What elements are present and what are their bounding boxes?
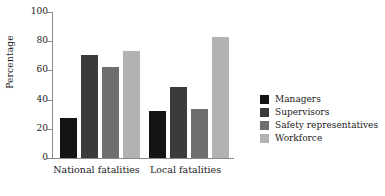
y-tick-label: 0	[42, 151, 48, 164]
legend-label: Managers	[275, 93, 321, 106]
bar	[123, 51, 140, 158]
y-tick-label: 100	[31, 5, 48, 18]
legend-item: Workforce	[260, 132, 378, 145]
legend-swatch-icon	[260, 121, 269, 130]
y-tick-label: 20	[37, 122, 48, 135]
legend-label: Supervisors	[275, 106, 329, 119]
plot-area: 020406080100 National fatalitiesLocal fa…	[52, 12, 230, 158]
bar-chart-figure: Percentage 020406080100 National fatalit…	[0, 0, 385, 196]
x-axis-group-label: National fatalities	[52, 164, 141, 175]
legend-label: Workforce	[275, 132, 322, 145]
legend-swatch-icon	[260, 108, 269, 117]
legend-item: Safety representatives	[260, 119, 378, 132]
legend-swatch-icon	[260, 95, 269, 104]
chart-legend: ManagersSupervisorsSafety representative…	[260, 93, 378, 145]
y-axis-line	[52, 12, 53, 158]
bar	[60, 118, 77, 158]
x-axis-line	[52, 158, 234, 159]
bar	[149, 111, 166, 158]
y-tick-label: 80	[37, 34, 48, 47]
legend-item: Supervisors	[260, 106, 378, 119]
legend-label: Safety representatives	[275, 119, 378, 132]
bar	[81, 55, 98, 158]
bar	[191, 109, 208, 158]
bar	[102, 67, 119, 158]
y-axis-title: Percentage	[5, 22, 15, 102]
y-tick-label: 40	[37, 93, 48, 106]
y-tick-label: 60	[37, 63, 48, 76]
legend-item: Managers	[260, 93, 378, 106]
bar	[170, 87, 187, 158]
x-axis-group-label: Local fatalities	[141, 164, 230, 175]
legend-swatch-icon	[260, 134, 269, 143]
bar	[212, 37, 229, 158]
